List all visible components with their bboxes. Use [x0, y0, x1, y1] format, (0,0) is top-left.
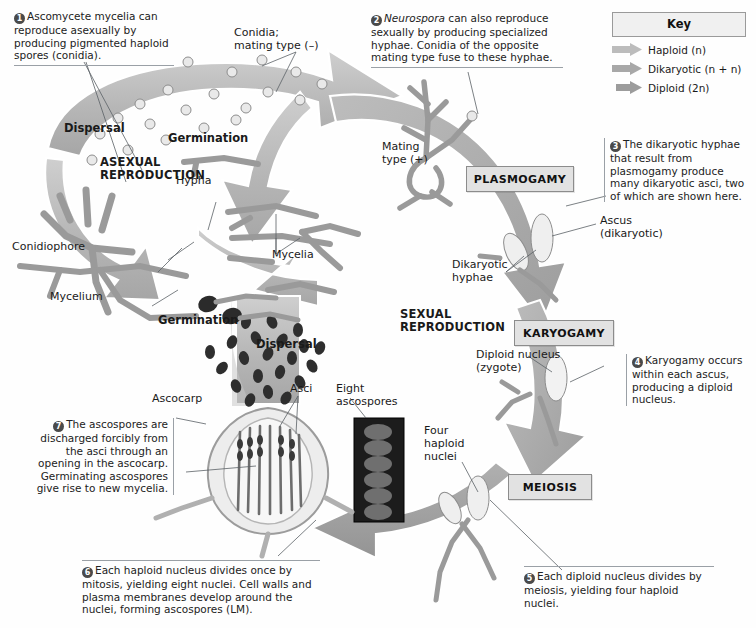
key-box: Key Haploid (n) Dikaryotic (n + n) Diplo…: [612, 12, 746, 94]
step-callout-2: 2Neurospora can also reproduce sexually …: [371, 12, 563, 68]
step-number-4: 4: [632, 357, 643, 368]
step-text-4: Karyogamy occurs within each ascus, prod…: [632, 354, 742, 405]
asexual-cycle-arrows: [45, 50, 402, 306]
step-callout-1: 1Ascomycete mycelia can reproduce asexua…: [14, 10, 174, 66]
step-text-1: Ascomycete mycelia can reproduce asexual…: [14, 10, 169, 61]
key-label-diploid: Diploid (2n): [648, 82, 709, 94]
key-entry-dikaryotic: Dikaryotic (n + n): [612, 62, 746, 75]
dikaryotic-swatch-icon: [612, 62, 642, 75]
step-text-6: Each haploid nucleus divides once by mit…: [82, 564, 312, 615]
step-callout-7: 7The ascospores are discharged forcibly …: [22, 418, 174, 495]
arrow-into-mycelia: [198, 228, 318, 306]
step-text-5: Each diploid nucleus divides by meiosis,…: [524, 570, 702, 609]
arrow-germination-asexual: [222, 92, 312, 244]
step-text-3: The dikaryotic hyphae that result from p…: [610, 138, 744, 202]
label-dispersal-bottom: Dispersal: [256, 338, 317, 351]
phase-label-sexual: SEXUAL REPRODUCTION: [400, 308, 505, 334]
step-number-1: 1: [14, 13, 25, 24]
step-number-6: 6: [82, 567, 93, 578]
key-label-haploid: Haploid (n): [648, 44, 706, 56]
conidia-spores: [87, 55, 327, 165]
four-haploid-nuclei-art: [434, 476, 494, 600]
label-four-haploid-nuclei: Four haploid nuclei: [424, 424, 465, 463]
life-cycle-diagram: Key Haploid (n) Dikaryotic (n + n) Diplo…: [0, 0, 756, 628]
step-text-2: Neurospora can also reproduce sexually b…: [371, 12, 553, 63]
label-asci: Asci: [290, 382, 312, 395]
lm-micrograph: [354, 418, 404, 522]
key-label-dikaryotic: Dikaryotic (n + n): [648, 63, 741, 75]
label-conidiophore: Conidiophore: [12, 240, 85, 253]
label-germination-bottom: Germination: [158, 314, 238, 327]
arrow-meiosis-bottom: [312, 462, 512, 558]
label-eight-ascospores: Eight ascospores: [336, 382, 397, 408]
haploid-swatch-icon: [612, 43, 642, 56]
stage-box-karyogamy: KARYOGAMY: [514, 320, 614, 346]
step-number-3: 3: [610, 141, 621, 152]
step-callout-3: 3The dikaryotic hyphae that result from …: [604, 138, 750, 202]
label-mycelia: Mycelia: [272, 248, 314, 261]
step-number-2: 2: [371, 15, 382, 26]
dikaryotic-asci-art: [480, 214, 556, 300]
step-callout-5: 5Each diploid nucleus divides by meiosis…: [524, 566, 714, 609]
step-callout-4: 4Karyogamy occurs within each ascus, pro…: [626, 354, 748, 406]
step-callout-6: 6Each haploid nucleus divides once by mi…: [82, 560, 320, 616]
label-ascocarp: Ascocarp: [152, 392, 202, 405]
mycelium-art-left: [20, 266, 196, 318]
step-number-7: 7: [53, 421, 64, 432]
label-mycelium: Mycelium: [50, 290, 103, 303]
leader-lines-layer: [0, 0, 756, 628]
label-dispersal-top: Dispersal: [64, 122, 125, 135]
ascospores-in-asci: [237, 435, 295, 461]
organism-art-layer: [0, 0, 756, 628]
stage-box-meiosis: MEIOSIS: [508, 474, 592, 500]
ascocarp-hyphae: [156, 498, 352, 556]
label-dikaryotic-hyphae: Dikaryotic hyphae: [452, 258, 508, 284]
label-ascus-dikaryotic: Ascus (dikaryotic): [600, 214, 663, 240]
label-diploid-nucleus: Diploid nucleus (zygote): [476, 348, 560, 374]
label-conidia-mating-minus: Conidia; mating type (–): [234, 26, 318, 52]
cycle-arrows-layer: [0, 0, 756, 628]
label-mating-type-plus: Mating type (+): [382, 140, 428, 166]
label-germination-top: Germination: [168, 132, 248, 145]
asci-inside: [238, 426, 301, 514]
key-entry-diploid: Diploid (2n): [612, 81, 746, 94]
label-hypha: Hypha: [176, 174, 211, 187]
stage-box-plasmogamy: PLASMOGAMY: [466, 166, 574, 192]
fusing-conidium: [467, 111, 477, 121]
arrow-to-plasmogamy: [330, 94, 566, 324]
ascocarp-art: [156, 408, 352, 556]
key-title: Key: [612, 12, 746, 37]
key-entry-haploid: Haploid (n): [612, 43, 746, 56]
diploid-swatch-icon: [612, 81, 642, 94]
step-number-5: 5: [524, 573, 535, 584]
